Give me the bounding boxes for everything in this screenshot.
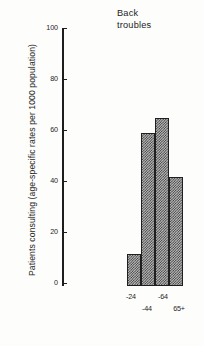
y-tick-100: 100	[0, 23, 58, 33]
y-tick-40: 40	[0, 176, 58, 186]
chart-title-line-1: Back	[117, 8, 138, 18]
y-tick-20: 20	[0, 227, 58, 237]
bar-2	[155, 118, 169, 284]
y-tick-label-0: 0	[32, 278, 58, 287]
bar-0	[127, 254, 141, 285]
plot-area	[62, 28, 204, 286]
y-tick-label-40: 40	[32, 176, 58, 185]
x-tick-label-2: -64	[155, 292, 171, 304]
x-tick-label-3: 65+	[171, 304, 187, 316]
y-axis-label: Patients consulting (age-specific rates …	[27, 10, 37, 310]
y-tick-80: 80	[0, 74, 58, 84]
chart-title: Back troubles	[117, 8, 151, 31]
x-tick-label-1: -44	[139, 304, 155, 316]
chart-title-line-2: troubles	[117, 20, 151, 32]
x-axis-baseline	[127, 285, 183, 287]
bar-1	[141, 133, 155, 284]
chart-figure: Patients consulting (age-specific rates …	[0, 0, 204, 346]
bar-series	[127, 29, 183, 285]
y-tick-0: 0	[0, 278, 58, 288]
x-axis-tick-labels: -24 . -64 . . -44 . 65+	[62, 292, 204, 322]
y-tick-label-60: 60	[32, 125, 58, 134]
y-tick-label-100: 100	[32, 23, 58, 32]
x-label-row-top: -24 . -64 .	[123, 292, 187, 304]
y-tick-label-20: 20	[32, 227, 58, 236]
bar-3	[169, 177, 183, 285]
x-tick-label-0: -24	[123, 292, 139, 304]
x-label-row-bottom: . -44 . 65+	[123, 304, 187, 316]
y-tick-60: 60	[0, 125, 58, 135]
y-tick-label-80: 80	[32, 74, 58, 83]
